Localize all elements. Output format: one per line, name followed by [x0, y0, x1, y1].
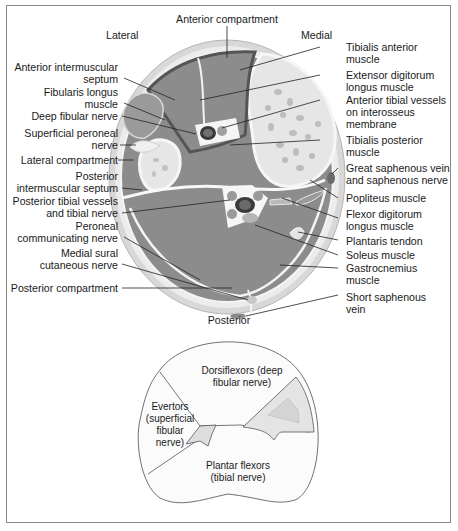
label-deep-fibular-nerve: Deep fibular nerve — [31, 110, 118, 122]
label-anterior-intermuscular-septum: Anterior intermuscularseptum — [14, 61, 118, 85]
label-plantaris-tendon: Plantaris tendon — [346, 235, 423, 247]
label-tibialis-posterior-muscle: Tibialis posteriormuscle — [346, 134, 423, 158]
orientation-medial: Medial — [301, 29, 332, 41]
orientation-lateral: Lateral — [106, 29, 138, 41]
label-short-saphenous-vein: Short saphenousvein — [346, 291, 426, 315]
label-anterior-tibial-vessels: Anterior tibial vesselson interosseusmem… — [346, 94, 446, 131]
label-lateral-compartment: Lateral compartment — [21, 154, 118, 166]
label-gastrocnemius-muscle: Gastrocnemiusmuscle — [346, 262, 417, 286]
label-medial-sural-cutaneous-nerve: Medial suralcutaneous nerve — [40, 247, 118, 271]
label-great-saphenous-vein: Great saphenous veinand saphenous nerve — [346, 162, 450, 186]
label-extensor-digitorum-longus: Extensor digitorumlongus muscle — [346, 69, 434, 93]
great-saphenous-vein-shape — [327, 172, 335, 184]
label-posterior-intermuscular-septum: Posteriorintermuscular septum — [17, 170, 118, 194]
label-peroneal-communicating-nerve: Peronealcommunicating nerve — [17, 220, 118, 244]
label-posterior-compartment: Posterior compartment — [11, 282, 118, 294]
region-dorsiflexors: Dorsiflexors (deepfibular nerve) — [187, 365, 297, 389]
tibia-bone — [248, 54, 335, 187]
orientation-posterior: Posterior — [203, 314, 255, 326]
label-tibialis-anterior-muscle: Tibialis anteriormuscle — [346, 41, 417, 65]
label-popliteus-muscle: Popliteus muscle — [346, 192, 426, 204]
label-superficial-peroneal-nerve: Superficial peronealnerve — [24, 127, 118, 151]
label-flexor-digitorum-longus: Flexor digitorumlongus muscle — [346, 208, 422, 232]
label-fibularis-longus-muscle: Fibularis longusmuscle — [44, 86, 118, 110]
label-posterior-tibial-vessels: Posterior tibial vesselsand tibial nerve — [13, 195, 118, 219]
orientation-anterior: Anterior compartment — [170, 13, 284, 25]
label-soleus-muscle: Soleus muscle — [346, 249, 415, 261]
region-evertors: Evertors(superficialfibularnerve) — [141, 401, 199, 449]
region-plantar-flexors: Plantar flexors(tibial nerve) — [185, 460, 291, 484]
medial-sural-nerve-shape — [247, 296, 257, 304]
